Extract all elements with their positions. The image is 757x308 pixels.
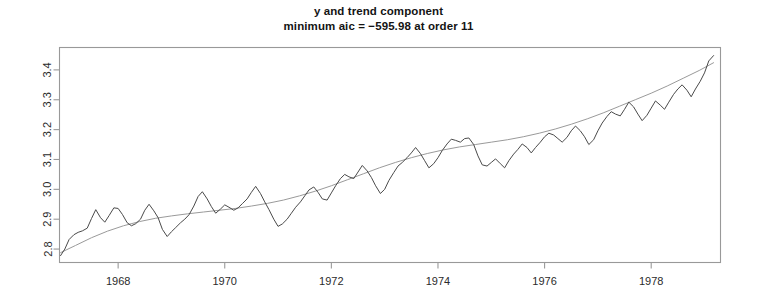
x-tick-label: 1970 [213,275,237,287]
x-axis-tick-labels: 196819701972197419761978 [106,275,664,287]
series-line-y [61,56,714,256]
y-tick-label: 3.1 [42,152,54,167]
x-axis-ticks [118,263,651,269]
plot-area: 196819701972197419761978 2.82.93.03.13.2… [0,0,757,308]
y-axis-tick-labels: 2.82.93.03.13.23.33.4 [42,62,54,256]
x-tick-label: 1976 [532,275,556,287]
data-series-group [61,56,714,256]
x-tick-label: 1978 [639,275,663,287]
x-tick-label: 1974 [426,275,450,287]
chart-figure: y and trend component minimum aic = −595… [0,0,757,308]
y-tick-label: 3.3 [42,92,54,107]
y-tick-label: 3.2 [42,122,54,137]
x-tick-label: 1972 [319,275,343,287]
y-axis-ticks [54,70,60,249]
y-tick-label: 2.8 [42,241,54,256]
y-tick-label: 2.9 [42,212,54,227]
y-tick-label: 3.0 [42,182,54,197]
y-tick-label: 3.4 [42,62,54,77]
axis-box [60,48,721,263]
x-tick-label: 1968 [106,275,130,287]
series-line-trend-component [61,63,714,253]
